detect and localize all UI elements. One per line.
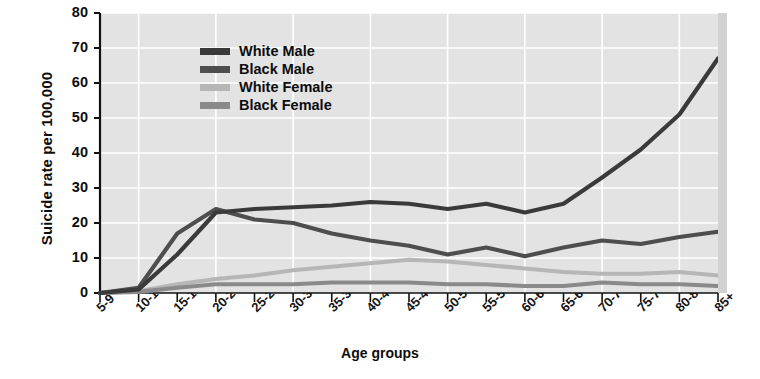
suicide-rate-by-age-chart: Suicide rate per 100,000 Age groups 0102…: [0, 0, 760, 379]
legend-swatch-icon: [200, 84, 230, 91]
legend-swatch-icon: [200, 66, 230, 73]
legend-swatch-icon: [200, 48, 230, 55]
legend-item: White Female: [200, 79, 332, 95]
plot-right-edge-shade: [718, 13, 727, 293]
legend-swatch-icon: [200, 102, 230, 109]
legend-item: Black Male: [200, 61, 332, 77]
legend-item: Black Female: [200, 97, 332, 113]
legend-label: White Male: [239, 43, 315, 59]
legend-label: Black Male: [239, 61, 314, 77]
chart-legend: White Male Black Male White Female Black…: [200, 43, 332, 115]
legend-label: Black Female: [239, 97, 332, 113]
plot-area: [0, 0, 760, 379]
legend-item: White Male: [200, 43, 332, 59]
legend-label: White Female: [239, 79, 332, 95]
